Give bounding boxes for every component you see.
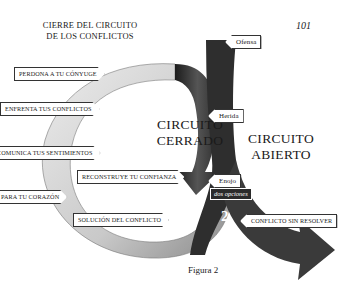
step-tag-rebuild-trust: Reconstruye tu Confianza: [77, 170, 184, 184]
step-tag-face-conflicts: Enfrenta tus Conflictos: [0, 102, 100, 116]
figure-caption: Figura 2: [188, 265, 218, 275]
step-tag-forgive-spouse: Perdona a tu Cónyuge: [14, 67, 105, 81]
open-circuit-label: CIRCUITO ABIERTO: [242, 131, 320, 163]
step-tag-anger: Enojo: [208, 174, 241, 188]
step-tag-for-your-heart: para tu Corazón: [0, 190, 67, 204]
step-tag-unresolved-conflict: Conflicto sin Resolver: [240, 214, 337, 228]
step-tag-hurt: Herida: [208, 109, 244, 123]
step-tag-offense: Ofensa: [225, 35, 261, 49]
closed-circuit-number: 1: [177, 208, 185, 225]
step-tag-communicate-feelings: Comunica tus Sentimientos: [0, 146, 100, 160]
two-options-note: dos opciones: [210, 188, 252, 200]
step-tag-conflict-solution: Solución del Conflicto: [73, 213, 169, 227]
open-circuit-number: 2: [221, 208, 229, 225]
